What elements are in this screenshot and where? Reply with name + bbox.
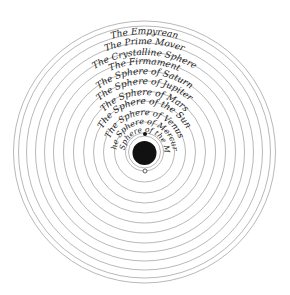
earth-globe xyxy=(133,141,157,165)
moon-marker-open xyxy=(143,169,147,173)
geocentric-cosmos-diagram: The Sphere of the Moon The Sphere of Mer… xyxy=(0,0,290,295)
